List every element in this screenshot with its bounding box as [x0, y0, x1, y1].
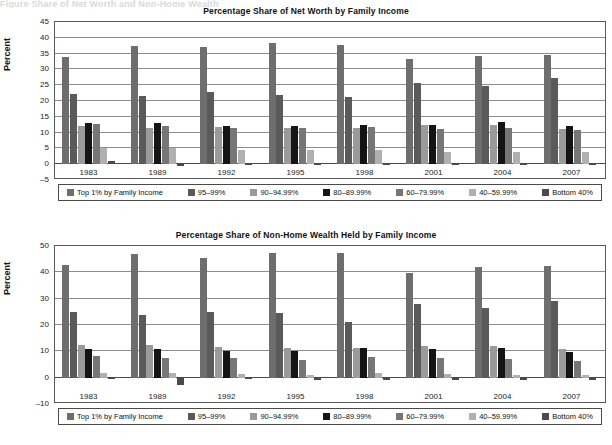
bar	[444, 374, 451, 378]
bar-group	[124, 22, 193, 178]
bar	[498, 122, 505, 164]
legend-label: 90–94.99%	[260, 412, 298, 421]
bar-group	[330, 246, 399, 402]
bar	[269, 43, 276, 165]
bar	[146, 128, 153, 165]
bar-set	[406, 22, 460, 178]
bar	[559, 349, 566, 377]
y-tick-label: 20	[40, 320, 49, 329]
bar	[146, 345, 153, 378]
bar-set	[475, 246, 529, 402]
bar-group	[399, 246, 468, 402]
bar	[215, 347, 222, 377]
bar	[444, 152, 451, 164]
bar	[589, 378, 596, 380]
x-tick-label: 2001	[399, 388, 468, 406]
y-tick-label: 0	[45, 159, 49, 168]
bar	[513, 375, 520, 378]
bar	[421, 125, 428, 164]
y-tick-label: 0	[45, 372, 49, 381]
bar	[139, 96, 146, 164]
y-tick-label: –5	[40, 175, 49, 184]
bar	[139, 315, 146, 378]
bar	[345, 97, 352, 164]
legend-swatch-icon	[188, 413, 195, 420]
bar	[566, 352, 573, 378]
bar	[284, 348, 291, 377]
bar	[383, 378, 390, 380]
bar	[353, 348, 360, 377]
chart-title-net-worth: Percentage Share of Net Worth by Family …	[0, 6, 612, 17]
bar	[223, 126, 230, 164]
bar	[307, 150, 314, 164]
legend-item: Bottom 40%	[542, 188, 593, 197]
bar	[582, 375, 589, 378]
bar-group	[124, 246, 193, 402]
x-tick-label: 2004	[468, 164, 537, 182]
bar-group	[536, 22, 605, 178]
bar	[513, 152, 520, 164]
legend-label: 90–94.99%	[260, 188, 298, 197]
legend-swatch-icon	[396, 189, 403, 196]
y-axis-ticks-bottom: 50403020100–10	[22, 245, 52, 403]
legend-item: 80–89.99%	[323, 412, 371, 421]
figure-page: Figure Share of Net Worth and Non-Home W…	[0, 0, 612, 445]
bar	[574, 361, 581, 378]
bar	[544, 55, 551, 164]
x-tick-label: 1983	[54, 388, 123, 406]
bar	[299, 128, 306, 164]
y-axis-ticks-top: 454035302520151050–5	[22, 21, 52, 179]
x-tick-label: 2007	[537, 388, 606, 406]
bar	[437, 129, 444, 164]
bar	[93, 124, 100, 164]
bar	[544, 266, 551, 378]
bar-group	[193, 22, 262, 178]
bar-group	[536, 246, 605, 402]
bar	[299, 360, 306, 378]
bar	[85, 123, 92, 164]
bar	[375, 150, 382, 164]
bar	[314, 378, 321, 381]
legend-item: Top 1% by Family Income	[67, 412, 163, 421]
legend-swatch-icon	[542, 189, 549, 196]
bar-set	[269, 22, 323, 178]
bar	[337, 45, 344, 164]
bar	[108, 378, 115, 380]
bar	[230, 358, 237, 377]
legend-item: Bottom 40%	[542, 412, 593, 421]
bar	[482, 308, 489, 378]
bar	[162, 126, 169, 164]
bar-set	[406, 246, 460, 402]
legend-label: 60–79.99%	[406, 412, 444, 421]
bar	[498, 348, 505, 378]
bar	[574, 130, 581, 164]
bar	[490, 346, 497, 377]
legend-item: 40–59.99%	[469, 188, 517, 197]
bar	[482, 86, 489, 164]
bar	[85, 349, 92, 378]
bar	[100, 148, 107, 164]
bar-groups	[55, 246, 605, 402]
chart-panel-non-home-wealth: Percentage Share of Non-Home Wealth Held…	[0, 230, 612, 445]
y-tick-label: 30	[40, 293, 49, 302]
bar-set	[337, 22, 391, 178]
bar	[245, 378, 252, 380]
bar	[368, 127, 375, 165]
bar	[345, 322, 352, 377]
x-tick-label: 1989	[123, 164, 192, 182]
x-tick-label: 2001	[399, 164, 468, 182]
y-axis-label-bottom: Percent	[2, 262, 12, 295]
bar-group	[261, 22, 330, 178]
bar	[429, 125, 436, 165]
legend-label: 95–99%	[198, 188, 226, 197]
x-tick-label: 2007	[537, 164, 606, 182]
bar	[559, 129, 566, 164]
bar	[505, 359, 512, 378]
y-tick-label: 40	[40, 267, 49, 276]
x-axis-ticks-bottom: 19831989199219951998200120042007	[54, 388, 606, 406]
legend-label: 80–89.99%	[333, 188, 371, 197]
legend-swatch-icon	[469, 189, 476, 196]
legend-swatch-icon	[323, 189, 330, 196]
x-tick-label: 1992	[192, 164, 261, 182]
bar	[360, 125, 367, 165]
